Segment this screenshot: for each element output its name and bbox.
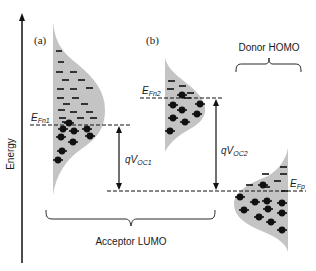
donor-brace xyxy=(236,58,301,72)
panel-label-a: (a) xyxy=(34,34,47,47)
acceptor-lumo-label: Acceptor LUMO xyxy=(95,236,166,247)
voc1-label: qVOC1 xyxy=(125,154,152,166)
voc2-label: qVOC2 xyxy=(221,145,248,157)
energy-axis xyxy=(19,13,25,263)
fermi-level-label-efn1: EFn1 xyxy=(31,112,50,124)
acceptor-brace xyxy=(46,210,215,226)
energy-level-diagram: Energy (a) (b) xyxy=(0,0,316,271)
acceptor-dos-b xyxy=(165,58,205,152)
fermi-level-label-efn2: EFn2 xyxy=(142,85,161,97)
voc1-arrow xyxy=(116,126,122,190)
panel-label-b: (b) xyxy=(146,34,159,47)
axis-arrow-icon xyxy=(19,13,25,21)
acceptor-dos-a xyxy=(53,22,105,195)
voc2-arrow xyxy=(213,99,219,190)
axis-label: Energy xyxy=(5,138,16,170)
fermi-level-label-efp: EFp xyxy=(290,178,305,191)
donor-homo-label: Donor HOMO xyxy=(238,42,299,53)
donor-dos xyxy=(234,148,288,252)
